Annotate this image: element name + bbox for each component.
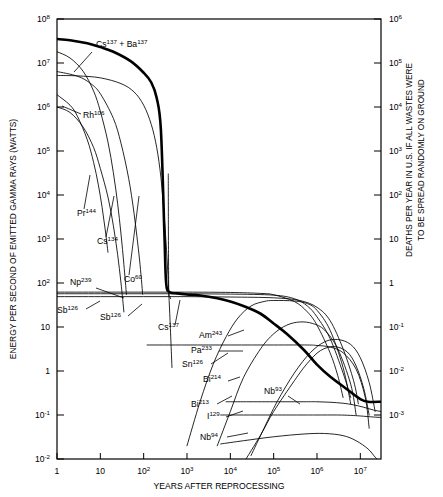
y-tick-label: 108 [37, 13, 51, 24]
curve-cs137-line [168, 174, 170, 299]
isotope-label-cs137: Cs137 [158, 321, 179, 332]
isotope-label-nb93: Nb93 [264, 385, 282, 396]
x-tick-label: 10 [96, 466, 106, 476]
leader-line [226, 411, 243, 417]
curve-bi213 [243, 346, 369, 463]
left-axis-title: ENERGY PER SECOND OF EMITTED GAMMA RAYS … [8, 119, 18, 359]
y-tick-label: 105 [37, 145, 51, 156]
x-axis: 110102103104105106107 [55, 453, 368, 476]
right-axis-title-line1: DEATHS PER YEAR IN U.S. IF ALL WASTES WE… [405, 63, 414, 257]
y2-tick-label: 102 [389, 189, 403, 200]
y-tick-label: 10-1 [35, 409, 51, 420]
right-axis-title-line2: TO BE SPREAD RANDOMLY ON GROUND [417, 79, 426, 241]
isotope-label-co60: Co60 [124, 273, 142, 284]
curve-sn126 [217, 322, 356, 446]
curve-cs137-ba137 [57, 76, 172, 368]
x-tick-label: 105 [267, 465, 281, 476]
y2-tick-label: 10-2 [389, 365, 405, 376]
leader-line [211, 353, 228, 364]
y-tick-label: 104 [37, 189, 51, 200]
isotope-label-rh106: Rh106 [83, 109, 105, 120]
isotope-label-i129: I129 [207, 410, 220, 421]
y2-tick-label: 1 [389, 278, 394, 288]
isotope-label-np239: Np239 [70, 276, 92, 287]
y-tick-label: 1 [45, 366, 50, 376]
y2-tick-label: 103 [389, 145, 403, 156]
curves-group [57, 39, 381, 463]
y-axis-left: 10810710610510410310210110-110-2 [35, 13, 64, 464]
y-tick-label: 102 [37, 277, 51, 288]
x-tick-label: 107 [354, 465, 368, 476]
curve-i129 [221, 415, 381, 417]
x-tick-label: 104 [224, 465, 238, 476]
y2-tick-label: 10-3 [389, 409, 405, 420]
x-axis-title: YEARS AFTER REPROCESSING [154, 481, 285, 491]
annotations-group: Cs137 + Ba137Rh106Pr144Cs134Co60Np239Sb1… [57, 38, 300, 442]
leader-line [74, 52, 92, 72]
y2-tick-label: 104 [389, 101, 403, 112]
leader-line [106, 196, 114, 237]
isotope-label-cs134: Cs134 [97, 235, 118, 246]
figure-root: 1101021031041051061071081071061051041031… [0, 0, 443, 497]
y-tick-label: 10 [40, 322, 50, 332]
leader-line [128, 304, 142, 316]
x-tick-label: 103 [180, 465, 194, 476]
y-tick-label: 107 [37, 57, 51, 68]
leader-line [228, 377, 240, 381]
x-tick-label: 102 [137, 465, 151, 476]
leader-line [217, 396, 232, 404]
leader-line [228, 330, 244, 336]
isotope-label-pr144: Pr144 [77, 207, 96, 218]
leader-line [86, 301, 100, 309]
x-tick-label: 1 [55, 466, 60, 476]
radioactive-waste-decay-chart: 1101021031041051061071081071061051041031… [0, 0, 443, 497]
isotope-label-cs137: Cs137 + Ba137 [96, 38, 148, 49]
y-tick-label: 103 [37, 233, 51, 244]
leader-line [288, 396, 300, 404]
isotope-label-bi213: Bi213 [191, 398, 210, 409]
leader-line [129, 196, 139, 275]
isotope-label-sb126: Sb126 [57, 304, 78, 315]
y-axis-right: 10610510410310210110-110-210-3 [374, 13, 405, 420]
isotope-label-am243: Am243 [199, 329, 223, 340]
y2-tick-label: 106 [389, 13, 403, 24]
leader-line [227, 433, 248, 437]
x-tick-label: 106 [310, 465, 324, 476]
isotope-label-sb126: Sb126 [100, 311, 121, 322]
y2-tick-label: 10 [389, 234, 399, 244]
isotope-label-bi214: Bi214 [203, 373, 222, 384]
y-tick-label: 10-2 [35, 453, 51, 464]
y-tick-label: 106 [37, 101, 51, 112]
curve-nb93 [226, 402, 381, 412]
leader-line [84, 175, 90, 209]
curve-cs134 [57, 52, 126, 295]
isotope-label-nb94: Nb94 [200, 431, 218, 442]
y2-tick-label: 105 [389, 57, 403, 68]
isotope-label-sn126: Sn126 [182, 358, 203, 369]
isotope-label-pa233: Pa233 [191, 344, 212, 355]
y2-tick-label: 10-1 [389, 321, 405, 332]
curve-pa233 [147, 345, 369, 428]
